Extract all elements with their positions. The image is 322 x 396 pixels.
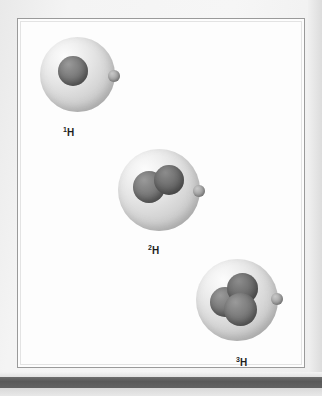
electron-bead-tritium [271, 293, 283, 305]
atom-label-protium: 1H [63, 127, 75, 138]
page-edge-shadow [0, 377, 322, 388]
atom-protium: 1H [40, 37, 140, 137]
element-symbol-tritium: H [240, 357, 247, 368]
electron-bead-deuterium [193, 185, 205, 197]
nucleon-proton-1 [58, 56, 88, 86]
element-symbol-protium: H [67, 127, 74, 138]
page-edge-underside [0, 388, 322, 396]
atom-label-deuterium: 2H [148, 245, 160, 256]
electron-bead-protium [108, 70, 120, 82]
atom-label-tritium: 3H [236, 357, 248, 368]
nucleon-neutron-2 [154, 165, 184, 195]
figure-panel: 1H 2H 3H [17, 18, 305, 368]
atom-deuterium: 2H [118, 149, 228, 259]
atom-tritium: 3H [196, 259, 311, 369]
nucleon-neutron-3b [224, 293, 257, 326]
scanned-page: 1H 2H 3H [0, 0, 322, 396]
element-symbol-deuterium: H [152, 245, 159, 256]
